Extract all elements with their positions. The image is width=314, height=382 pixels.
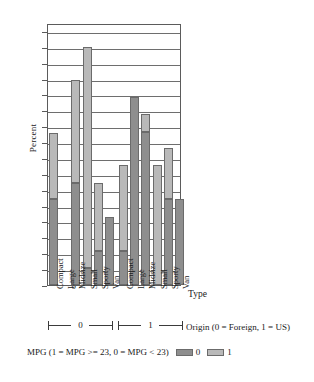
y-axis-title: Percent — [28, 108, 38, 168]
gridline — [48, 112, 180, 113]
outer-group-bracket: 1 — [118, 320, 183, 332]
x-axis-category-label: Sporty — [101, 266, 110, 289]
x-axis-category-label: Compact — [56, 258, 65, 289]
gridline — [48, 81, 180, 82]
x-axis-category-label: Large — [67, 269, 76, 289]
gridline — [48, 160, 180, 161]
bar-segment-mpg-0 — [130, 97, 139, 285]
outer-group-label: 0 — [48, 319, 113, 331]
bar — [83, 47, 92, 285]
x-axis-category-label: Compact — [126, 258, 135, 289]
x-axis-title: Type — [188, 289, 207, 299]
gridline — [48, 65, 180, 66]
legend-label: 0 — [196, 347, 201, 357]
bar-segment-mpg-1 — [119, 165, 128, 251]
outer-group-label: 1 — [118, 319, 183, 331]
bar-chart-figure: Percent 012345678910111213141516 Compact… — [0, 0, 314, 382]
bar — [164, 148, 173, 285]
x-axis-category-label: Sporty — [171, 266, 180, 289]
legend-items: 01 — [176, 347, 239, 357]
bar-segment-mpg-1 — [49, 133, 58, 200]
bar — [141, 114, 150, 285]
gridline — [48, 49, 180, 50]
x-axis-category-label: Midsize — [78, 262, 87, 289]
bar — [71, 80, 80, 285]
bar-segment-mpg-1 — [83, 47, 92, 269]
gridline — [48, 128, 180, 129]
bar-segment-mpg-1 — [71, 80, 80, 182]
x-axis-category-label: Small — [90, 269, 99, 289]
y-axis-tick-mark — [42, 286, 47, 287]
x-axis-category-label: Van — [112, 276, 121, 289]
x-axis-category-label: Small — [160, 269, 169, 289]
gridline — [48, 33, 180, 34]
plot-area — [47, 24, 181, 286]
legend-label: 1 — [227, 347, 232, 357]
bar-segment-mpg-1 — [164, 148, 173, 199]
bar-segment-mpg-1 — [94, 183, 103, 251]
legend-item: 1 — [207, 347, 232, 357]
gridline — [48, 96, 180, 97]
bar-segment-mpg-1 — [141, 114, 150, 131]
outer-group-bracket: 0 — [48, 320, 113, 332]
x-axis-category-label: Large — [137, 269, 146, 289]
legend: MPG (1 = MPG >= 23, 0 = MPG < 23) 01 — [27, 347, 239, 357]
x-axis-category-label: Midsize — [148, 262, 157, 289]
legend-swatch — [207, 349, 224, 356]
legend-swatch — [176, 349, 193, 356]
bar — [130, 97, 139, 285]
legend-title: MPG (1 = MPG >= 23, 0 = MPG < 23) — [27, 347, 169, 357]
outer-group-title: Origin (0 = Foreign, 1 = US) — [186, 322, 290, 332]
gridline — [48, 144, 180, 145]
legend-item: 0 — [176, 347, 201, 357]
x-axis-category-label: Van — [182, 276, 191, 289]
